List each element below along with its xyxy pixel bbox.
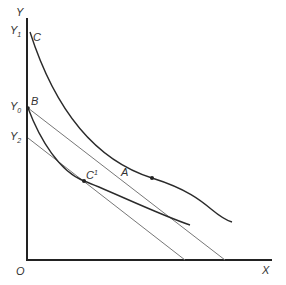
origin-label: O bbox=[16, 265, 25, 277]
x-axis-label: X bbox=[261, 264, 270, 276]
indifference-curve-diagram: Y X O Y1 Y0 Y2 C B A C1 bbox=[0, 0, 286, 285]
budget-line-from-B bbox=[28, 108, 225, 260]
lower-indifference-curve bbox=[28, 108, 190, 225]
label-C1: C1 bbox=[86, 169, 98, 181]
point-A bbox=[150, 176, 154, 180]
upper-indifference-curve bbox=[30, 32, 232, 222]
y2-label: Y2 bbox=[10, 130, 21, 144]
point-B bbox=[26, 106, 30, 110]
budget-line-from-Y2 bbox=[28, 138, 185, 260]
y1-label: Y1 bbox=[10, 24, 21, 38]
label-B: B bbox=[31, 95, 38, 107]
label-C: C bbox=[33, 31, 41, 43]
label-A: A bbox=[120, 166, 128, 178]
y0-label: Y0 bbox=[10, 100, 21, 114]
y-axis-label: Y bbox=[16, 6, 24, 18]
